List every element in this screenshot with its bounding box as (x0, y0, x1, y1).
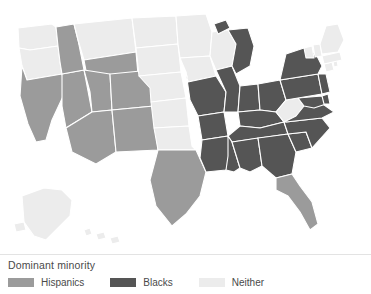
state-nd[interactable] (132, 16, 178, 48)
state-ar[interactable] (198, 112, 228, 140)
legend-label-hispanics: Hispanics (41, 277, 84, 288)
map-svg (0, 0, 371, 256)
us-choropleth-map (0, 0, 371, 256)
state-me[interactable] (320, 24, 344, 54)
states-layer (14, 14, 344, 244)
legend-label-neither: Neither (232, 277, 264, 288)
legend-item-hispanics[interactable]: Hispanics (8, 277, 84, 288)
state-hi[interactable] (96, 232, 106, 240)
state-nm[interactable] (112, 106, 158, 152)
state-hi[interactable] (110, 236, 120, 244)
state-ak[interactable] (22, 188, 72, 240)
legend-swatch-neither (199, 278, 225, 287)
state-ga[interactable] (258, 134, 296, 178)
state-vt[interactable] (304, 46, 314, 58)
legend-items: HispanicsBlacksNeither (8, 277, 290, 288)
legend: Dominant minority HispanicsBlacksNeither (0, 254, 371, 294)
state-hi[interactable] (84, 228, 92, 236)
state-fl[interactable] (276, 174, 318, 230)
legend-swatch-blacks (110, 278, 136, 287)
state-mn[interactable] (176, 14, 212, 58)
legend-item-blacks[interactable]: Blacks (110, 277, 172, 288)
state-ks[interactable] (151, 98, 189, 128)
legend-item-neither[interactable]: Neither (199, 277, 264, 288)
state-in[interactable] (238, 84, 260, 112)
state-wa[interactable] (18, 24, 58, 50)
state-ok[interactable] (154, 126, 196, 150)
legend-swatch-hispanics (8, 278, 34, 287)
legend-title: Dominant minority (8, 259, 95, 271)
state-de[interactable] (322, 94, 330, 104)
state-sd[interactable] (136, 44, 181, 76)
legend-label-blacks: Blacks (143, 277, 172, 288)
state-tx[interactable] (150, 150, 206, 226)
state-ak[interactable] (14, 222, 26, 232)
